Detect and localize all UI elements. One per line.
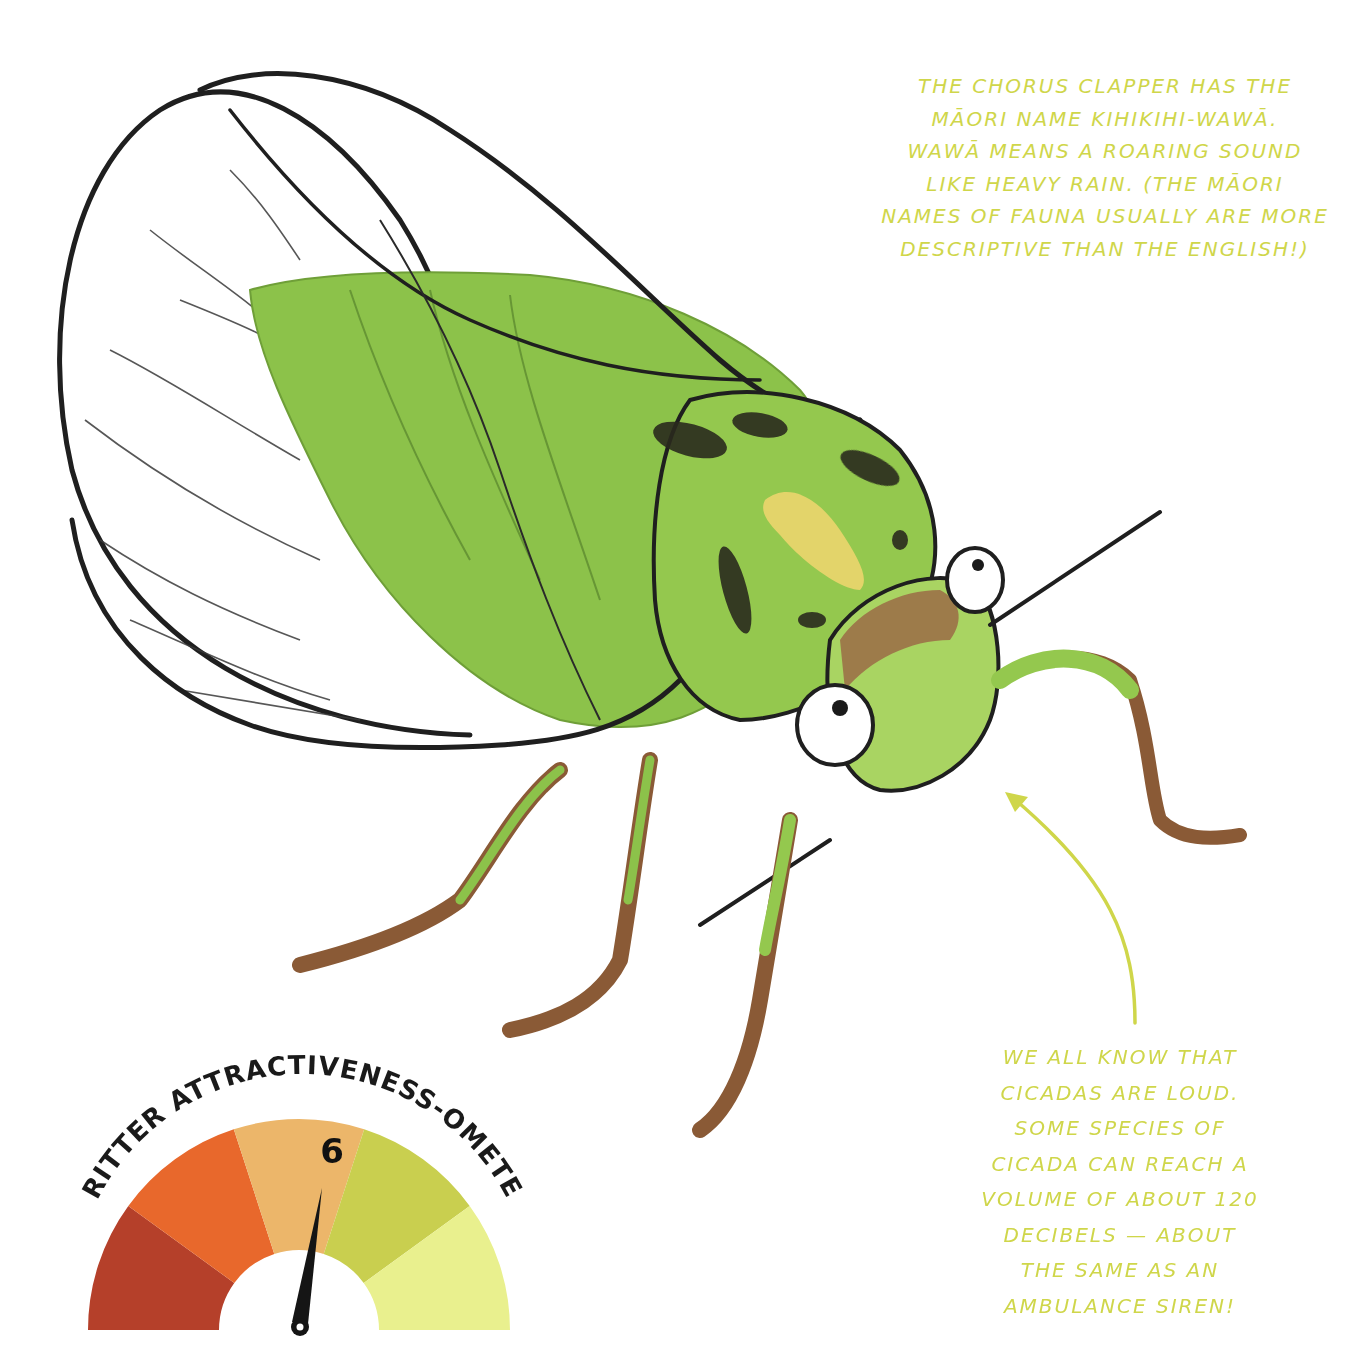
- caption-line: DECIBELS — ABOUT: [972, 1218, 1268, 1254]
- caption-maori-name: THE CHORUS CLAPPER HAS THE MĀORI NAME KI…: [872, 70, 1338, 265]
- caption-line: WE ALL KNOW THAT: [972, 1040, 1268, 1076]
- arrow-icon: [1012, 797, 1135, 1023]
- caption-loudness: WE ALL KNOW THAT CICADAS ARE LOUD. SOME …: [972, 1040, 1268, 1324]
- caption-line: NAMES OF FAUNA USUALLY ARE MORE: [872, 200, 1338, 233]
- caption-line: VOLUME OF ABOUT 120: [972, 1182, 1268, 1218]
- caption-line: THE CHORUS CLAPPER HAS THE: [872, 70, 1338, 103]
- caption-line: THE SAME AS AN: [972, 1253, 1268, 1289]
- eye-icon: [797, 685, 873, 765]
- caption-line: CICADA CAN REACH A: [972, 1147, 1268, 1183]
- caption-line: CICADAS ARE LOUD.: [972, 1076, 1268, 1112]
- caption-line: WAWĀ MEANS A ROARING SOUND: [872, 135, 1338, 168]
- eye-icon: [947, 548, 1003, 612]
- caption-line: DESCRIPTIVE THAN THE ENGLISH!): [872, 233, 1338, 266]
- caption-line: AMBULANCE SIREN!: [972, 1289, 1268, 1325]
- caption-line: MĀORI NAME KIHIKIHI-WAWĀ.: [872, 103, 1338, 136]
- caption-line: LIKE HEAVY RAIN. (THE MĀORI: [872, 168, 1338, 201]
- caption-line: SOME SPECIES OF: [972, 1111, 1268, 1147]
